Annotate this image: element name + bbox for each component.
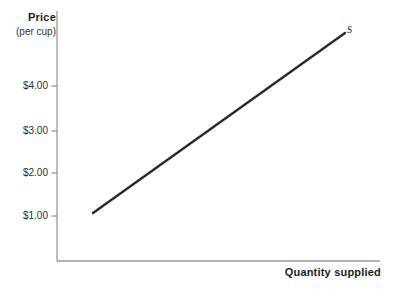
y-axis-title: Price (per cup) (0, 11, 56, 38)
y-tick-label-300: $3.00 (0, 125, 48, 137)
y-axis-title-main: Price (0, 11, 56, 25)
supply-chart-canvas (0, 0, 397, 289)
supply-curve-line (93, 33, 345, 213)
y-axis-title-sub: (per cup) (0, 26, 56, 39)
y-tick-label-200: $2.00 (0, 167, 48, 179)
y-tick-label-400: $4.00 (0, 80, 48, 92)
supply-curve-figure: Price (per cup) $4.00 $3.00 $2.00 $1.00 … (0, 0, 397, 289)
y-axis-tick-marks (52, 86, 58, 216)
y-tick-label-100: $1.00 (0, 210, 48, 222)
x-axis-title: Quantity supplied (285, 266, 381, 278)
supply-curve-label: S (347, 24, 352, 35)
